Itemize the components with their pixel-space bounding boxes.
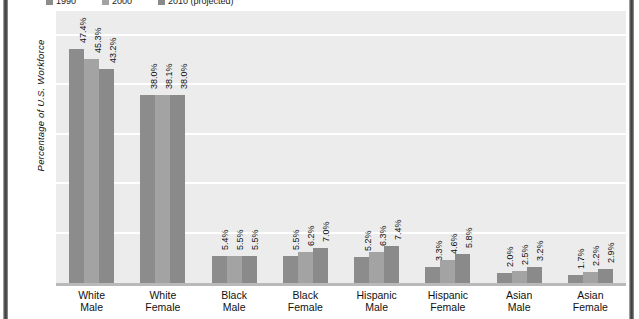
- category-label-line: Male: [199, 301, 270, 313]
- bar-slot: 2.2%: [583, 11, 598, 283]
- legend-swatch-icon: [102, 0, 109, 5]
- bar-slot: 1.7%: [568, 11, 583, 283]
- category-label-line: Female: [412, 301, 483, 313]
- bar[interactable]: [512, 271, 527, 283]
- y-axis-title: Percentage of U.S. Workforce: [35, 26, 46, 186]
- bar-group: 2.0%2.5%3.2%: [484, 11, 555, 283]
- category-label-line: Hispanic: [341, 289, 412, 301]
- category-label-line: Male: [56, 301, 127, 313]
- bar[interactable]: [354, 257, 369, 283]
- bar-slot: 47.4%: [69, 11, 84, 283]
- bar[interactable]: [369, 252, 384, 283]
- bar-slot: 3.3%: [425, 11, 440, 283]
- bar[interactable]: [242, 256, 257, 283]
- x-axis-category-label: BlackFemale: [270, 289, 341, 313]
- category-label-line: Black: [199, 289, 270, 301]
- bar[interactable]: [583, 272, 598, 283]
- bar[interactable]: [69, 49, 84, 283]
- bar-slot: 45.3%: [84, 11, 99, 283]
- bar-value-label: 3.2%: [535, 241, 545, 262]
- x-axis-category-label: AsianFemale: [555, 289, 626, 313]
- bar[interactable]: [84, 59, 99, 283]
- category-label-line: White: [56, 289, 127, 301]
- bar-slot: 7.0%: [313, 11, 328, 283]
- bar[interactable]: [283, 256, 298, 283]
- category-label-line: White: [127, 289, 198, 301]
- legend-label: 1990: [56, 0, 76, 6]
- bar-value-label: 38.0%: [179, 64, 189, 90]
- bar[interactable]: [298, 252, 313, 283]
- bar[interactable]: [313, 248, 328, 283]
- bar-slot: 6.2%: [298, 11, 313, 283]
- legend-entry[interactable]: 1990: [46, 0, 76, 6]
- bar-group: 5.5%6.2%7.0%: [270, 11, 341, 283]
- x-axis-category-label: BlackMale: [199, 289, 270, 313]
- bar[interactable]: [598, 269, 613, 283]
- legend-swatch-icon: [46, 0, 53, 5]
- x-axis-baseline: [56, 283, 626, 286]
- bar-slot: 2.0%: [497, 11, 512, 283]
- legend-entry[interactable]: 2010 (projected): [158, 0, 234, 6]
- x-axis-category-label: WhiteMale: [56, 289, 127, 313]
- x-axis-category-label: HispanicFemale: [412, 289, 483, 313]
- bar-slot: 5.5%: [242, 11, 257, 283]
- bar[interactable]: [140, 95, 155, 283]
- bar-slot: 5.5%: [283, 11, 298, 283]
- bar-group: 5.4%5.5%5.5%: [199, 11, 270, 283]
- bar-slot: 3.2%: [527, 11, 542, 283]
- bar[interactable]: [425, 267, 440, 283]
- plot-area: 102030405047.4%45.3%43.2%38.0%38.1%38.0%…: [56, 11, 626, 283]
- bar[interactable]: [212, 256, 227, 283]
- category-label-line: Female: [555, 301, 626, 313]
- chart-legend: 199020002010 (projected): [46, 0, 234, 7]
- bar-slot: 6.3%: [369, 11, 384, 283]
- bar-value-label: 7.4%: [393, 220, 403, 241]
- x-axis-category-label: AsianMale: [484, 289, 555, 313]
- category-label-line: Male: [484, 301, 555, 313]
- bar-slot: 7.4%: [384, 11, 399, 283]
- bar-value-label: 43.2%: [108, 38, 118, 64]
- right-edge-rail: [629, 0, 634, 319]
- bar-slot: 4.6%: [440, 11, 455, 283]
- category-label-line: Hispanic: [412, 289, 483, 301]
- bar[interactable]: [227, 256, 242, 283]
- legend-swatch-icon: [158, 0, 165, 5]
- bar-slot: 5.2%: [354, 11, 369, 283]
- legend-entry[interactable]: 2000: [102, 0, 132, 6]
- category-label-line: Black: [270, 289, 341, 301]
- bar-slot: 38.1%: [155, 11, 170, 283]
- category-label-line: Asian: [484, 289, 555, 301]
- bar-value-label: 7.0%: [321, 222, 331, 243]
- bar-group: 1.7%2.2%2.9%: [555, 11, 626, 283]
- bar[interactable]: [527, 267, 542, 283]
- left-edge-rail: [3, 0, 8, 319]
- bar-slot: 5.4%: [212, 11, 227, 283]
- legend-label: 2000: [112, 0, 132, 6]
- bar[interactable]: [170, 95, 185, 283]
- bar-slot: 38.0%: [140, 11, 155, 283]
- bar[interactable]: [455, 254, 470, 283]
- bar[interactable]: [497, 273, 512, 283]
- category-label-line: Female: [127, 301, 198, 313]
- bar-value-label: 2.9%: [606, 242, 616, 263]
- bar-value-label: 5.5%: [250, 229, 260, 250]
- bar-group: 5.2%6.3%7.4%: [341, 11, 412, 283]
- bar[interactable]: [99, 69, 114, 283]
- bar-group: 47.4%45.3%43.2%: [56, 11, 127, 283]
- bar-slot: 2.9%: [598, 11, 613, 283]
- x-axis-category-label: WhiteFemale: [127, 289, 198, 313]
- bar-slot: 5.8%: [455, 11, 470, 283]
- category-label-line: Male: [341, 301, 412, 313]
- bar[interactable]: [440, 260, 455, 283]
- bar[interactable]: [384, 246, 399, 283]
- bar[interactable]: [568, 275, 583, 283]
- legend-label: 2010 (projected): [168, 0, 234, 6]
- bar-value-label: 5.8%: [464, 228, 474, 249]
- chart-screenshot: 199020002010 (projected) Percentage of U…: [0, 0, 639, 319]
- bar-group: 38.0%38.1%38.0%: [127, 11, 198, 283]
- category-label-line: Female: [270, 301, 341, 313]
- category-label-line: Asian: [555, 289, 626, 301]
- bar[interactable]: [155, 95, 170, 283]
- x-axis-category-label: HispanicMale: [341, 289, 412, 313]
- bar-group: 3.3%4.6%5.8%: [412, 11, 483, 283]
